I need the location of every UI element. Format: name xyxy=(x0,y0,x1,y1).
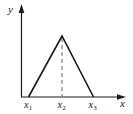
triangular-function-figure: y x x1 x2 x3 xyxy=(0,0,133,114)
tick-x3-subscript: 3 xyxy=(93,104,97,112)
plot-canvas: y x x1 x2 x3 xyxy=(0,0,133,114)
tick-label-x3: x3 xyxy=(88,99,98,112)
y-axis-arrow-icon xyxy=(19,4,25,13)
tick-x2-subscript: 2 xyxy=(62,104,66,112)
tick-x1-subscript: 1 xyxy=(29,104,33,112)
x-axis-label: x xyxy=(119,97,125,109)
tick-label-x1: x1 xyxy=(23,99,33,112)
tick-label-x2: x2 xyxy=(57,99,67,112)
triangle-function-curve xyxy=(29,36,94,97)
y-axis-label: y xyxy=(7,3,13,15)
